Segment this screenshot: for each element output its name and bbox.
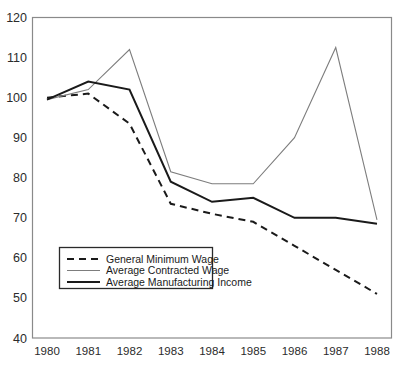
y-tick-label-100: 100 <box>6 91 27 105</box>
x-tick-label-1986: 1986 <box>282 345 308 357</box>
chart-canvas: 120110100908070605040 198019811982198319… <box>0 0 405 374</box>
y-tick-label-60: 60 <box>13 251 27 265</box>
x-tick-label-1985: 1985 <box>240 345 266 357</box>
x-tick-label-1982: 1982 <box>117 345 143 357</box>
y-tick-label-70: 70 <box>13 211 27 225</box>
y-tick-label-50: 50 <box>13 291 27 305</box>
x-tick-label-1984: 1984 <box>199 345 225 357</box>
x-tick-label-1988: 1988 <box>364 345 390 357</box>
x-tick-label-1983: 1983 <box>158 345 184 357</box>
legend-label-1: Average Contracted Wage <box>106 264 229 276</box>
plot-area-frame <box>33 18 392 339</box>
y-tick-label-80: 80 <box>13 171 27 185</box>
legend-label-2: Average Manufacturing Income <box>106 276 252 288</box>
y-tick-label-110: 110 <box>7 51 27 65</box>
legend-label-0: General Minimum Wage <box>106 253 219 265</box>
x-axis-tick-labels: 198019811982198319841985198619871988 <box>34 345 390 357</box>
y-tick-label-120: 120 <box>6 11 27 25</box>
line-chart: 120110100908070605040 198019811982198319… <box>0 0 405 374</box>
x-tick-label-1987: 1987 <box>323 345 349 357</box>
x-tick-label-1980: 1980 <box>34 345 60 357</box>
x-tick-label-1981: 1981 <box>75 345 101 357</box>
y-tick-label-90: 90 <box>13 131 27 145</box>
y-tick-label-40: 40 <box>13 332 27 346</box>
